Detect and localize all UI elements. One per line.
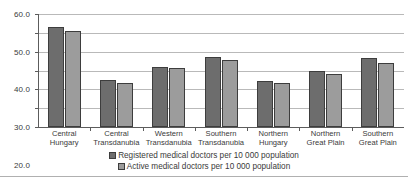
bar-active bbox=[378, 63, 394, 127]
bar-active bbox=[65, 31, 81, 127]
bar-group bbox=[257, 14, 290, 127]
bar-active bbox=[274, 83, 290, 127]
x-axis-tick bbox=[247, 127, 248, 131]
legend-label-registered: Registered medical doctors per 10 000 po… bbox=[118, 151, 299, 160]
x-axis-tick bbox=[90, 127, 91, 131]
bar-active bbox=[222, 60, 238, 127]
x-axis-category-label-line: Transdanubia bbox=[93, 139, 139, 148]
y-axis-tick: 40.0 bbox=[35, 52, 39, 53]
legend-label-active: Active medical doctors per 10 000 popula… bbox=[127, 162, 290, 171]
bar-group bbox=[48, 14, 81, 127]
y-axis-tick-label: 30.0 bbox=[14, 123, 30, 132]
y-axis-tick: 10.0 bbox=[35, 108, 39, 109]
x-axis-category-label: CentralTransdanubia bbox=[93, 130, 139, 147]
x-axis-category-label: CentralHungary bbox=[50, 130, 79, 147]
legend-item-registered: Registered medical doctors per 10 000 po… bbox=[0, 150, 408, 161]
x-axis-category-label-line: Transdanubia bbox=[198, 139, 244, 148]
x-axis-line bbox=[38, 127, 404, 128]
bar-registered bbox=[361, 58, 377, 127]
x-axis-category-label-line: Hungary bbox=[50, 139, 79, 148]
grouped-bar-chart: 0.010.020.030.040.050.060.0 CentralHunga… bbox=[0, 0, 408, 183]
bar-registered bbox=[48, 27, 64, 127]
x-axis-category-label-line: Great Plain bbox=[307, 139, 345, 148]
bar-registered bbox=[152, 67, 168, 127]
legend-swatch-registered-icon bbox=[109, 152, 116, 159]
x-axis-tick bbox=[352, 127, 353, 131]
y-axis-tick: 30.0 bbox=[35, 71, 39, 72]
plot-area: 0.010.020.030.040.050.060.0 bbox=[38, 14, 404, 127]
y-axis-tick: 50.0 bbox=[35, 33, 39, 34]
x-axis-category-label-line: Great Plain bbox=[359, 139, 397, 148]
bar-registered bbox=[257, 81, 273, 127]
chart-legend: Registered medical doctors per 10 000 po… bbox=[0, 150, 408, 172]
y-axis-tick: 60.0 bbox=[35, 14, 39, 15]
bottom-divider bbox=[0, 176, 408, 177]
bar-group bbox=[152, 14, 185, 127]
bar-registered bbox=[309, 71, 325, 127]
y-axis-tick: 0.0 bbox=[35, 127, 39, 128]
bar-active bbox=[326, 74, 342, 127]
bar-group bbox=[205, 14, 238, 127]
legend-item-active: Active medical doctors per 10 000 popula… bbox=[0, 161, 408, 172]
x-axis-category-label-line: Transdanubia bbox=[146, 139, 192, 148]
legend-swatch-active-icon bbox=[118, 163, 125, 170]
x-axis-category-label: NorthernHungary bbox=[259, 130, 289, 147]
x-axis-tick bbox=[143, 127, 144, 131]
x-axis-tick bbox=[299, 127, 300, 131]
y-axis-tick-label: 40.0 bbox=[14, 85, 30, 94]
x-axis-category-label-line: Hungary bbox=[259, 139, 289, 148]
bar-group bbox=[361, 14, 394, 127]
y-axis-tick: 20.0 bbox=[35, 89, 39, 90]
bar-active bbox=[169, 68, 185, 127]
x-axis-category-label: NorthernGreat Plain bbox=[307, 130, 345, 147]
x-axis-category-label: SouthernGreat Plain bbox=[359, 130, 397, 147]
y-axis-tick-label: 50.0 bbox=[14, 47, 30, 56]
x-axis-tick bbox=[195, 127, 196, 131]
x-axis-category-label: WesternTransdanubia bbox=[146, 130, 192, 147]
bar-registered bbox=[100, 80, 116, 127]
bar-group bbox=[100, 14, 133, 127]
bar-registered bbox=[205, 57, 221, 127]
x-axis-category-label: SouthernTransdanubia bbox=[198, 130, 244, 147]
bar-group bbox=[309, 14, 342, 127]
y-axis-tick-label: 60.0 bbox=[14, 10, 30, 19]
bar-active bbox=[117, 83, 133, 127]
